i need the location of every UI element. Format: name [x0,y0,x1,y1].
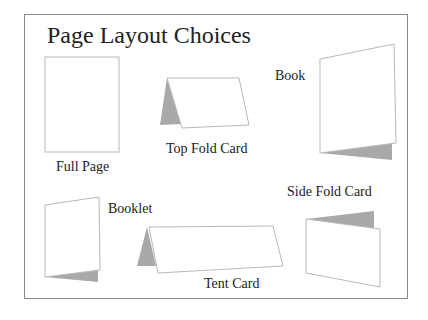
label-book: Book [275,68,305,84]
top-fold-card-shape [160,78,249,128]
label-side-fold-card: Side Fold Card [287,184,372,200]
side-fold-card-shape [306,211,380,287]
tent-card-shape [137,226,283,273]
label-top-fold-card: Top Fold Card [166,141,247,157]
label-booklet: Booklet [108,201,152,217]
label-tent-card: Tent Card [204,276,259,292]
label-full-page: Full Page [56,159,109,175]
full-page-shape [45,57,119,152]
book-shape [320,44,396,160]
booklet-shape [45,197,100,282]
